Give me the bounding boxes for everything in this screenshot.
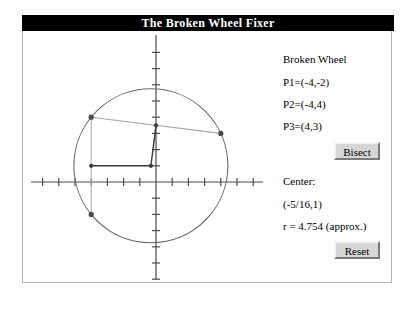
center-marker xyxy=(149,164,153,168)
window-client-area: Broken Wheel P1=(-4,-2) P2=(-4,4) P3=(4,… xyxy=(22,31,392,283)
application-window: The Broken Wheel Fixer xyxy=(22,15,394,285)
midpoint-marker-p1p2 xyxy=(89,164,93,168)
point-p2[interactable] xyxy=(89,115,94,120)
point-p3[interactable] xyxy=(218,131,223,136)
point-p3-readout: P3=(4,3) xyxy=(283,120,322,132)
geometry-canvas[interactable] xyxy=(23,31,271,283)
reset-button[interactable]: Reset xyxy=(334,241,380,259)
point-p1[interactable] xyxy=(89,212,94,217)
radius-readout: r = 4.754 (approx.) xyxy=(283,220,367,232)
applet-root: The Broken Wheel Fixer xyxy=(0,0,416,312)
info-panel: Broken Wheel P1=(-4,-2) P2=(-4,4) P3=(4,… xyxy=(271,31,393,283)
window-title: The Broken Wheel Fixer xyxy=(22,15,394,31)
center-value-readout: (-5/16,1) xyxy=(283,198,322,210)
midpoint-marker-p2p3 xyxy=(154,123,158,127)
perpendicular-bisector-p2p3 xyxy=(151,125,156,166)
center-label: Center: xyxy=(283,175,315,187)
geometry-plot xyxy=(23,31,271,281)
panel-heading: Broken Wheel xyxy=(283,53,347,65)
bisect-button[interactable]: Bisect xyxy=(334,142,380,160)
point-p1-readout: P1=(-4,-2) xyxy=(283,76,329,88)
point-p2-readout: P2=(-4,4) xyxy=(283,98,326,110)
